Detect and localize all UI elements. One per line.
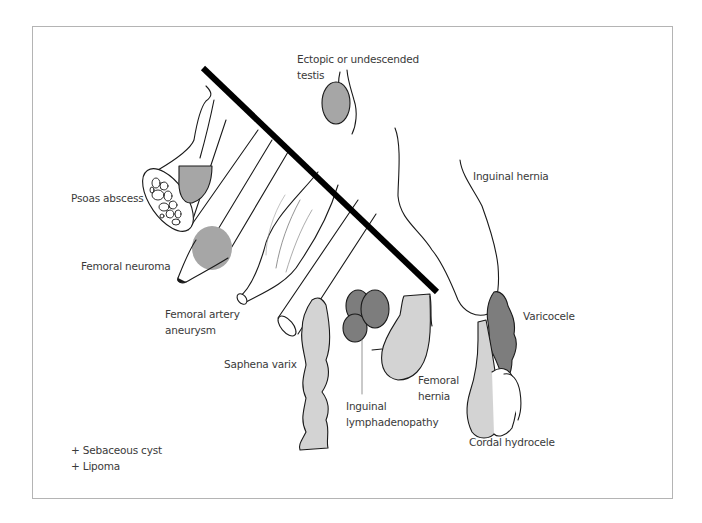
footnotes: + Sebaceous cyst + Lipoma: [71, 442, 162, 474]
footnote-lipoma: + Lipoma: [71, 458, 162, 474]
lymph-nodes-shape: [343, 290, 389, 342]
label-varicocele: Varicocele: [523, 308, 575, 324]
label-ectopic-testis: Ectopic or undescended testis: [297, 51, 419, 83]
label-femoral-artery-aneurysm: Femoral artery aneurysm: [165, 306, 240, 338]
psoas-muscle-shape: [133, 86, 258, 240]
psoas-abscess-shape: [179, 166, 212, 203]
femoral-nerve-shape: [178, 140, 288, 283]
label-saphena-varix: Saphena varix: [224, 356, 297, 372]
label-cordal-hydrocele: Cordal hydrocele: [469, 434, 555, 450]
label-femoral-neuroma: Femoral neuroma: [81, 258, 171, 274]
inguinal-ligament-line: [203, 68, 437, 292]
label-psoas-abscess: Psoas abscess: [71, 190, 143, 206]
femoral-artery-shape: [235, 172, 338, 306]
label-inguinal-hernia: Inguinal hernia: [473, 168, 549, 184]
inguinal-hernia-shape: [395, 128, 499, 315]
label-femoral-hernia: Femoral hernia: [418, 372, 459, 404]
footnote-sebaceous-cyst: + Sebaceous cyst: [71, 442, 162, 458]
saphena-varix-shape: [299, 298, 329, 450]
